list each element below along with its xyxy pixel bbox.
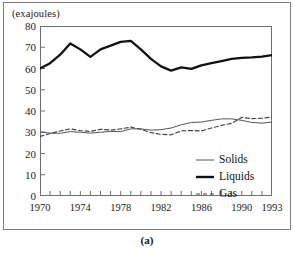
legend-line-solids-icon [196,154,214,166]
y-axis-tick-80: 80 [6,20,36,32]
x-axis-tick-1990: 1990 [231,202,252,213]
legend-item-liquids: Liquids [196,169,276,185]
figure-caption: (a) [0,234,294,246]
y-axis-tick-10: 10 [6,169,36,181]
y-axis-tick-50: 50 [6,84,36,96]
y-axis-unit-label: (exajoules) [12,8,60,19]
legend-label-solids: Solids [219,154,248,166]
x-axis-tick-1974: 1974 [70,202,91,213]
x-axis-tick-1978: 1978 [110,202,131,213]
y-axis-tick-0: 0 [6,190,36,202]
x-axis-tick-1993: 1993 [262,202,283,213]
y-axis-tick-70: 70 [6,41,36,53]
y-axis-tick-20: 20 [6,148,36,160]
legend-item-gas: Gas [196,186,276,202]
legend-label-liquids: Liquids [219,171,254,183]
legend-label-gas: Gas [219,188,237,200]
y-axis-tick-60: 60 [6,63,36,75]
figure-panel-a: (exajoules) 01020304050607080 1970197419… [0,0,294,254]
y-axis-tick-40: 40 [6,105,36,117]
x-axis-tick-1970: 1970 [30,202,51,213]
legend-line-gas-icon [196,188,214,200]
y-axis-tick-30: 30 [6,126,36,138]
legend-line-liquids-icon [196,171,214,183]
x-axis-tick-1982: 1982 [151,202,172,213]
x-axis-tick-1986: 1986 [191,202,212,213]
chart-legend: Solids Liquids Gas [196,152,276,203]
legend-item-solids: Solids [196,152,276,168]
